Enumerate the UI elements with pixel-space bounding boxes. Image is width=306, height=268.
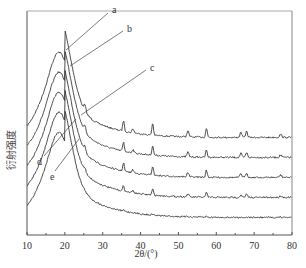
series-d-line	[27, 91, 291, 199]
curve-label-e: e	[50, 171, 55, 182]
xrd-chart: 1020304050607080 abcde 2θ/(°) 衍射强度	[0, 0, 306, 268]
x-tick-label: 70	[249, 240, 259, 251]
series-c-line	[27, 71, 291, 179]
x-tick-label: 60	[211, 240, 221, 251]
curve-label-a: a	[112, 4, 117, 15]
x-tick-label: 30	[98, 240, 108, 251]
series-a-line	[27, 31, 291, 138]
curve-label-c: c	[150, 62, 155, 73]
leader-line-c	[81, 70, 146, 115]
x-tick-label: 80	[287, 240, 297, 251]
curve-labels: abcde	[37, 4, 155, 182]
series-e-line	[27, 111, 291, 218]
curve-label-d: d	[37, 156, 42, 167]
y-axis-title: 衍射强度	[5, 130, 17, 170]
leader-line-a	[66, 13, 108, 50]
series-b-line	[27, 52, 291, 158]
curves	[27, 31, 291, 218]
x-axis-title: 2θ/(°)	[134, 248, 157, 260]
curve-label-b: b	[127, 23, 132, 34]
x-tick-label: 10	[22, 240, 32, 251]
leader-line-e	[55, 139, 79, 171]
x-tick-label: 50	[173, 240, 183, 251]
leader-line-b	[70, 31, 123, 66]
leader-line-d	[44, 119, 76, 156]
x-tick-label: 20	[60, 240, 70, 251]
